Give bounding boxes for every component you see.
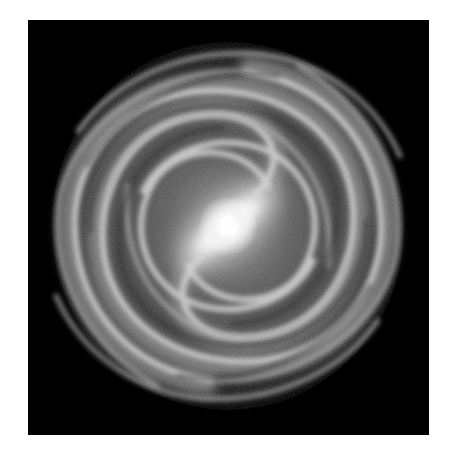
galaxy-image-panel: [28, 20, 429, 435]
star-grain: [52, 42, 404, 410]
spiral-galaxy: [28, 20, 429, 435]
